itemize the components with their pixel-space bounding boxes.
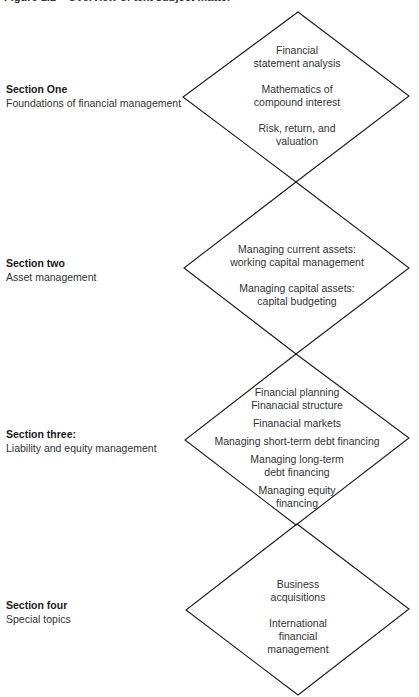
section-one-label: Section One Foundations of financial man… bbox=[6, 82, 181, 110]
section-one-topics: Financial statement analysis Mathematics… bbox=[197, 44, 397, 161]
section-subtitle: Special topics bbox=[6, 612, 71, 626]
topic: Managing capital assets: capital budgeti… bbox=[197, 282, 397, 308]
topic: Risk, return, and valuation bbox=[197, 122, 397, 148]
topic: Mathematics of compound interest bbox=[197, 83, 397, 109]
topic: Finanacial markets bbox=[187, 417, 407, 430]
topic: Financial statement analysis bbox=[197, 44, 397, 70]
topic: Business acquisitions bbox=[198, 578, 398, 604]
topic: International financial management bbox=[198, 617, 398, 656]
section-two-label: Section two Asset management bbox=[6, 256, 96, 284]
topic: Managing equity financing bbox=[187, 484, 407, 510]
section-two-topics: Managing current assets: working capital… bbox=[197, 243, 397, 321]
section-title: Section One bbox=[6, 82, 181, 96]
section-title: Section two bbox=[6, 256, 96, 270]
section-subtitle: Foundations of financial management bbox=[6, 96, 181, 110]
section-title: Section three: bbox=[6, 427, 157, 441]
section-three-label: Section three: Liability and equity mana… bbox=[6, 427, 157, 455]
section-subtitle: Liability and equity management bbox=[6, 441, 157, 455]
section-four-topics: Business acquisitions International fina… bbox=[198, 578, 398, 669]
topic: Managing short-term debt financing bbox=[187, 435, 407, 448]
topic: Managing current assets: working capital… bbox=[197, 243, 397, 269]
section-title: Section four bbox=[6, 598, 71, 612]
topic: Financial planning bbox=[187, 386, 407, 399]
topic: Finanacial structure bbox=[187, 399, 407, 412]
topic: Managing long-term debt financing bbox=[187, 453, 407, 479]
section-subtitle: Asset management bbox=[6, 270, 96, 284]
section-three-topics: Financial planning Finanacial structure … bbox=[187, 386, 407, 515]
section-four-label: Section four Special topics bbox=[6, 598, 71, 626]
